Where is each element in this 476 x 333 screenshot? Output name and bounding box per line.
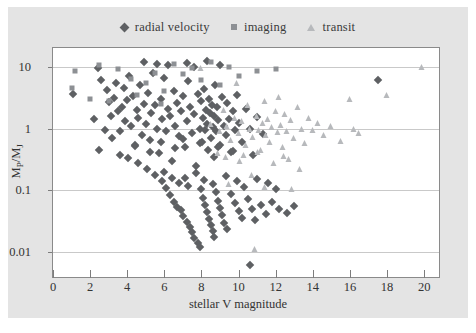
legend-item-radial-velocity: radial velocity	[121, 19, 210, 35]
figure-panel: radial velocity imaging transit 1010.10.…	[8, 7, 468, 318]
plot-area	[52, 47, 440, 278]
point-transit	[272, 108, 278, 114]
point-radial-velocity	[106, 112, 114, 120]
point-radial-velocity	[175, 179, 183, 187]
x-tick-label: 8	[198, 280, 204, 295]
x-tick-label: 12	[269, 280, 282, 295]
point-radial-velocity	[182, 117, 190, 125]
point-radial-velocity	[134, 113, 142, 121]
point-radial-velocity	[283, 208, 291, 216]
y-tick-mark	[48, 190, 52, 191]
point-imaging	[273, 67, 278, 72]
point-transit	[309, 127, 315, 133]
diamond-icon	[119, 22, 129, 32]
point-radial-velocity	[160, 168, 168, 176]
point-radial-velocity	[210, 232, 218, 240]
point-transit	[281, 153, 287, 159]
point-transit	[241, 152, 247, 158]
x-tick-mark	[313, 270, 314, 278]
point-transit	[239, 118, 245, 124]
point-transit	[255, 149, 261, 155]
point-imaging	[115, 67, 120, 72]
point-radial-velocity	[142, 165, 150, 173]
square-icon	[231, 24, 237, 30]
point-radial-velocity	[195, 243, 203, 251]
point-radial-velocity	[206, 134, 214, 142]
point-radial-velocity	[124, 154, 132, 162]
point-radial-velocity	[103, 86, 111, 94]
point-radial-velocity	[190, 110, 198, 118]
point-imaging	[255, 69, 260, 74]
point-transit	[237, 158, 243, 164]
point-transit	[276, 94, 282, 100]
point-radial-velocity	[184, 77, 192, 85]
point-transit	[306, 115, 312, 121]
point-imaging	[106, 98, 111, 103]
y-tick-mark	[48, 252, 52, 253]
point-radial-velocity	[168, 174, 176, 182]
point-imaging	[134, 92, 139, 97]
y-tick-label: 0.01	[9, 245, 31, 260]
point-radial-velocity	[138, 130, 146, 138]
point-radial-velocity	[151, 170, 159, 178]
point-imaging	[227, 64, 232, 69]
point-radial-velocity	[262, 210, 270, 218]
y-axis-label-sub-j: J	[15, 144, 25, 148]
point-transit	[228, 137, 234, 143]
point-transit	[320, 132, 326, 138]
point-transit	[384, 92, 390, 98]
point-transit	[315, 120, 321, 126]
point-transit	[302, 140, 308, 146]
point-transit	[217, 128, 223, 134]
point-transit	[261, 184, 267, 190]
point-imaging	[73, 69, 78, 74]
point-transit	[274, 129, 280, 135]
y-tick-label: 0.1	[15, 183, 31, 198]
point-transit	[243, 142, 249, 148]
y-tick-mark	[48, 67, 52, 68]
point-transit	[283, 128, 289, 134]
point-radial-velocity	[245, 261, 253, 269]
point-transit	[296, 166, 302, 172]
point-transit	[261, 98, 267, 104]
point-transit	[222, 154, 228, 160]
point-radial-velocity	[145, 136, 153, 144]
legend-item-transit: transit	[307, 19, 355, 35]
point-radial-velocity	[212, 188, 220, 196]
point-imaging	[143, 80, 148, 85]
point-transit	[281, 111, 287, 117]
point-radial-velocity	[204, 146, 212, 154]
point-radial-velocity	[197, 185, 205, 193]
legend-label-imaging: imaging	[244, 20, 286, 35]
x-tick-mark	[387, 270, 388, 278]
point-transit	[270, 160, 276, 166]
point-radial-velocity	[95, 146, 103, 154]
x-tick-mark	[350, 270, 351, 278]
point-radial-velocity	[244, 195, 252, 203]
y-axis-label-sub-p: P	[15, 162, 25, 167]
point-radial-velocity	[223, 99, 231, 107]
point-radial-velocity	[238, 214, 246, 222]
legend-label-transit: transit	[323, 20, 356, 35]
gridline	[53, 252, 439, 253]
point-transit	[254, 113, 260, 119]
point-radial-velocity	[257, 201, 265, 209]
point-radial-velocity	[271, 185, 279, 193]
point-radial-velocity	[132, 106, 140, 114]
x-axis-label: stellar V magnitude	[8, 297, 468, 312]
triangle-icon	[307, 24, 315, 31]
point-radial-velocity	[177, 107, 185, 115]
y-axis-label-m: M	[9, 167, 23, 178]
point-transit	[337, 138, 343, 144]
point-radial-velocity	[181, 143, 189, 151]
point-imaging	[88, 97, 93, 102]
point-radial-velocity	[69, 90, 77, 98]
point-radial-velocity	[200, 84, 208, 92]
point-radial-velocity	[171, 144, 179, 152]
point-transit	[252, 246, 258, 252]
point-radial-velocity	[192, 169, 200, 177]
point-imaging	[162, 89, 167, 94]
x-tick-mark	[424, 270, 425, 278]
point-imaging	[158, 101, 163, 106]
point-radial-velocity	[169, 87, 177, 95]
